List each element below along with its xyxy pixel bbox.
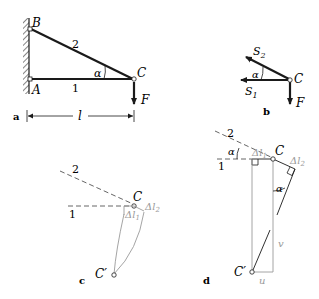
label-C-prime-c: C′ xyxy=(95,267,107,281)
bar-2 xyxy=(31,29,133,79)
label-alpha-d1: α xyxy=(228,146,235,157)
truss-diagram: B A C 2 1 α F l a S2 S1 α C F b xyxy=(0,0,319,299)
angle-arc-d1 xyxy=(237,148,239,159)
panel-label-a: a xyxy=(13,111,20,122)
label-bar-2: 2 xyxy=(72,38,79,51)
panel-c: 2 1 C Δl1 Δl2 C′ c xyxy=(60,163,160,286)
label-dl1-c: Δl1 xyxy=(124,209,140,222)
label-bar-1-d: 1 xyxy=(218,160,225,173)
perp-bar2-d-lower xyxy=(253,230,270,270)
joint-C-prime-d xyxy=(250,270,254,274)
label-B: B xyxy=(31,16,41,30)
label-bar-2-c: 2 xyxy=(72,163,79,176)
panel-b: S2 S1 α C F b xyxy=(241,45,305,117)
label-C-c: C xyxy=(133,190,142,204)
dl2-segment xyxy=(134,206,144,211)
label-dl1-d: Δl1 xyxy=(251,147,267,160)
bar-2-dashed xyxy=(60,171,133,204)
joint-C-b xyxy=(288,78,292,82)
right-angle-d1 xyxy=(252,159,258,165)
label-C-prime-d: C′ xyxy=(234,265,246,279)
joint-C-prime-c xyxy=(112,273,116,277)
panel-label-d: d xyxy=(203,275,210,286)
panel-d: 2 1 α α C Δl1 Δl2 v u C′ d xyxy=(203,127,305,286)
label-dl2-c: Δl2 xyxy=(144,201,160,214)
label-F-b: F xyxy=(295,96,305,110)
label-S1: S1 xyxy=(245,85,258,100)
label-l: l xyxy=(78,109,82,123)
label-C-b: C xyxy=(294,72,303,86)
label-bar-1: 1 xyxy=(72,82,79,95)
joint-A xyxy=(28,77,32,81)
label-dl2-d: Δl2 xyxy=(289,155,305,168)
label-C-d: C xyxy=(275,144,284,158)
angle-arc-b xyxy=(261,67,263,80)
label-bar-2-d: 2 xyxy=(227,127,234,140)
label-A: A xyxy=(31,83,41,97)
label-v: v xyxy=(278,238,284,249)
label-bar-1-c: 1 xyxy=(69,208,76,221)
label-alpha-b: α xyxy=(252,69,259,80)
label-S2: S2 xyxy=(253,45,266,60)
label-u: u xyxy=(259,275,265,286)
label-alpha-d2: α xyxy=(276,183,283,194)
joint-C xyxy=(132,77,136,81)
label-C: C xyxy=(137,66,146,80)
label-alpha: α xyxy=(94,67,102,80)
label-F: F xyxy=(140,93,150,107)
panel-a: B A C 2 1 α F l a xyxy=(13,16,150,123)
angle-arc xyxy=(104,65,105,79)
panel-label-c: c xyxy=(79,275,85,286)
panel-label-b: b xyxy=(263,106,270,117)
